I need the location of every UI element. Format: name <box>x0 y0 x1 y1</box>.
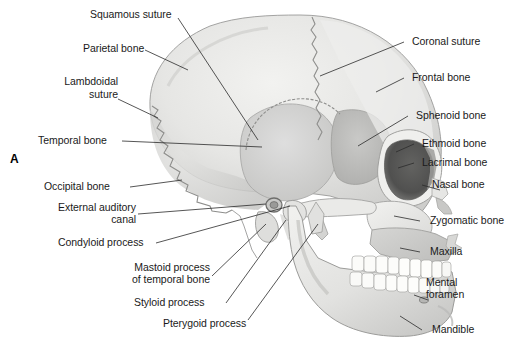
label-nasal-bone: Nasal bone <box>432 179 485 191</box>
label-coronal-suture: Coronal suture <box>412 36 480 48</box>
label-temporal-bone: Temporal bone <box>38 135 107 147</box>
label-lambdoidal-suture-line2: suture <box>0 89 118 101</box>
label-lambdoidal-suture-line1: Lambdoidal <box>0 76 118 88</box>
label-occipital-bone: Occipital bone <box>44 181 110 193</box>
label-external-auditory-canal-line1: External auditory <box>0 202 136 214</box>
label-maxilla: Maxilla <box>430 246 462 258</box>
label-condyloid-process: Condyloid process <box>58 237 144 249</box>
label-mental-foramen-line1: Mental <box>426 277 457 289</box>
label-frontal-bone: Frontal bone <box>412 72 470 84</box>
panel-letter-a: A <box>10 152 19 166</box>
label-external-auditory-canal-line2: canal <box>0 214 136 226</box>
label-mandible: Mandible <box>432 324 474 336</box>
label-mental-foramen-line2: foramen <box>426 289 464 301</box>
external-auditory-canal-opening <box>270 202 278 209</box>
label-mastoid-process-line2: of temporal bone <box>70 274 210 286</box>
label-pterygoid-process: Pterygoid process <box>163 318 246 330</box>
occipitomastoid-suture-line <box>232 210 257 258</box>
label-ethmoid-bone: Ethmoid bone <box>422 138 486 150</box>
label-styloid-process: Styloid process <box>134 297 204 309</box>
leader-mastoid-process <box>212 224 266 276</box>
label-parietal-bone: Parietal bone <box>83 43 144 55</box>
label-sphenoid-bone: Sphenoid bone <box>416 110 486 122</box>
label-lacrimal-bone: Lacrimal bone <box>422 157 487 169</box>
label-zygomatic-bone: Zygomatic bone <box>430 215 504 227</box>
label-mastoid-process-line1: Mastoid process <box>70 262 210 274</box>
nasal-aperture-edge <box>436 198 452 214</box>
leader-occipital-bone <box>130 180 182 187</box>
mastoid-process <box>255 212 278 243</box>
label-squamous-suture: Squamous suture <box>90 9 172 21</box>
leader-styloid-process <box>226 220 286 303</box>
figure-canvas: A Squamous suture Parietal bone Lambdoid… <box>0 0 525 353</box>
